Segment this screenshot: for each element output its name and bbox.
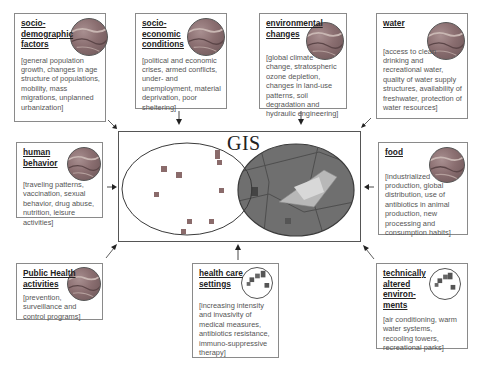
arrow-icon (108, 120, 118, 130)
factor-box-public-health: Public Health activities [prevention, su… (16, 263, 103, 320)
factor-box-water: water [access to clean drinking and recr… (376, 13, 468, 119)
point-markers (154, 150, 224, 234)
factor-description: [global climate change, stratospheric oz… (266, 53, 341, 119)
factor-description: [increasing intensity and invasivity of … (199, 301, 273, 357)
factor-description: [traveling patterns, vaccination, sexual… (23, 180, 97, 227)
arrow-icon (106, 244, 118, 258)
factor-title: socio- demographic factors (21, 18, 100, 50)
factor-description: [industrialized production, global distr… (385, 172, 462, 238)
factor-description: [prevention, surveillance and control pr… (23, 293, 97, 321)
factor-description: [access to clean drinking and recreation… (383, 47, 462, 113)
factor-title: water (383, 18, 462, 29)
factor-title: food (385, 147, 462, 158)
factor-description: [general population growth, changes in a… (21, 56, 100, 112)
factor-box-environmental: environmental changes [global climate ch… (259, 13, 347, 109)
arrow-icon (364, 182, 374, 192)
factor-title: technically altered environ- ments (383, 268, 462, 310)
factor-title: socio- economic conditions (142, 18, 221, 50)
factor-description: [political and economic crises, armed co… (142, 56, 221, 112)
arrow-icon (107, 182, 117, 192)
factor-title: human behavior (23, 147, 97, 168)
factor-box-human-behavior: human behavior [traveling patterns, vacc… (16, 142, 103, 218)
gis-label: GIS (227, 132, 261, 155)
factor-box-food: food [industrialized production, global … (378, 142, 468, 235)
factor-box-socio-economic: socio- economic conditions [political an… (135, 13, 227, 109)
factor-title: environmental changes (266, 18, 341, 39)
factor-box-health-care: health care settings [increasing intensi… (192, 263, 279, 358)
factor-box-socio-demographic: socio- demographic factors [general popu… (14, 13, 106, 122)
factor-box-technical-env: technically altered environ- ments [air … (376, 263, 468, 349)
arrow-icon (174, 111, 184, 125)
gis-panel: GIS (118, 131, 361, 242)
factor-title: Public Health activities (23, 268, 97, 289)
factor-title: health care settings (199, 268, 273, 289)
arrow-icon (362, 245, 374, 259)
arrow-icon (233, 244, 243, 260)
factor-description: [air conditioning, warm water systems, r… (383, 315, 462, 353)
arrow-icon (361, 118, 371, 128)
